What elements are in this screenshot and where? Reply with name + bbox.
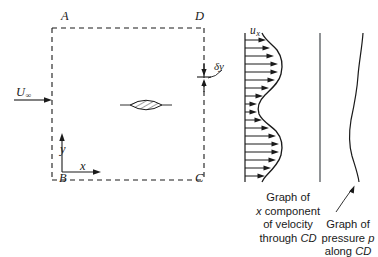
corner-label-A: A [61, 9, 69, 24]
pressure-caption-line-2: pressure p [296, 232, 378, 246]
velocity-caption-line-2: x component [213, 205, 363, 219]
corner-label-B: B [59, 171, 67, 186]
pressure-caption-line-1: Graph of [296, 218, 378, 232]
delta-y-arrow-down-head [201, 79, 206, 86]
x-axis-label: x [80, 159, 86, 174]
velocity-caption-line-1: Graph of [213, 191, 363, 205]
body-hatch-fill [130, 100, 162, 110]
freestream-velocity-label: U∞ [16, 85, 31, 100]
velocity-subscript: x [256, 28, 260, 38]
freestream-velocity-subscript: ∞ [25, 91, 31, 100]
velocity-symbol: u [250, 24, 256, 36]
corner-label-D: D [195, 9, 204, 24]
x-axis-arrowhead [93, 169, 101, 174]
pressure-graph-caption: Graph of pressure p along CD [296, 218, 378, 257]
pressure-curve [350, 33, 363, 182]
corner-label-C: C [195, 171, 203, 186]
pressure-caption-line-3: along CD [296, 245, 378, 257]
pressure-caption-p: p [368, 232, 374, 244]
velocity-profile-graph [245, 33, 282, 182]
y-axis-label: y [60, 142, 66, 157]
delta-y-arrow-up-head [201, 69, 206, 76]
y-axis-arrowhead [59, 133, 64, 141]
freestream-velocity-symbol: U [16, 85, 25, 99]
velocity-caption-x: x [256, 205, 262, 217]
pressure-caption-cd: CD [355, 245, 371, 257]
velocity-axis-label: ux [250, 24, 260, 38]
control-volume-box [52, 28, 204, 180]
pressure-graph [320, 33, 363, 212]
immersed-body [120, 100, 172, 110]
velocity-arrow-group [245, 37, 279, 178]
delta-y-label: δy [214, 60, 224, 72]
